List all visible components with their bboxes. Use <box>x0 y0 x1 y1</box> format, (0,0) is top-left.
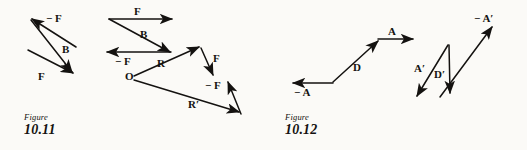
figure-caption-word: Figure <box>285 113 318 122</box>
vector-label-minus-A: − A <box>294 87 310 98</box>
vector-label-A-prime: A′ <box>414 63 425 74</box>
vector-label-A-top: A <box>388 26 396 37</box>
figure-caption-figure-10-11: Figure10.11 <box>24 113 56 138</box>
figure-page: − FBFFB− FRFR′− FODA− AA′D′− A′ Figure10… <box>0 0 527 150</box>
vector-label-R: R <box>157 58 165 69</box>
vector-label-F: F <box>38 71 45 82</box>
vector-label-R-prime: R′ <box>188 99 199 110</box>
vector-arrow-R-prime <box>134 80 239 112</box>
vector-label-B: B <box>62 44 69 55</box>
vector-label-minus-F-right: − F <box>205 80 221 91</box>
vector-label-B-diagonal: B <box>140 29 147 40</box>
figure-caption-number: 10.11 <box>24 123 56 138</box>
vector-arrow-minus-A-prime <box>440 27 492 97</box>
vector-label-minus-F: − F <box>46 13 62 24</box>
figure-caption-figure-10-12: Figure10.12 <box>285 113 318 138</box>
vector-label-D-prime: D′ <box>434 69 445 80</box>
vector-diagram-canvas <box>0 0 527 150</box>
figure-caption-number: 10.12 <box>285 123 318 138</box>
vector-label-D: D <box>353 62 361 73</box>
vector-label-minus-F-bottom: − F <box>115 56 131 67</box>
figure-caption-word: Figure <box>24 113 56 122</box>
vector-label-F-top: F <box>134 6 141 17</box>
vector-label-F-right: F <box>213 53 220 64</box>
vector-label-minus-A-prime: − A′ <box>474 13 493 24</box>
origin-label-O: O <box>125 71 134 82</box>
vector-arrow-F-right <box>201 48 213 75</box>
